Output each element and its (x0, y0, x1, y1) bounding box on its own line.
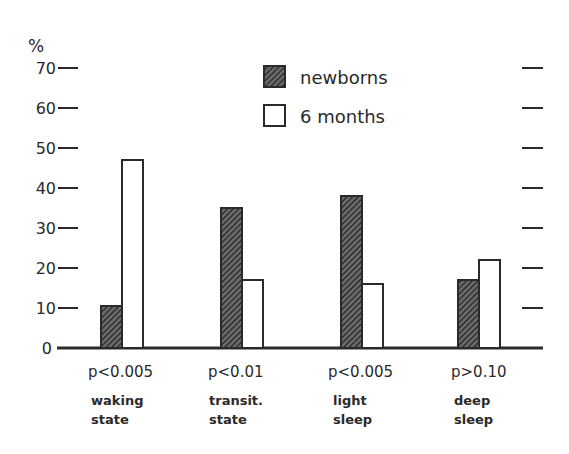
legend-swatch-newborns (264, 66, 285, 87)
p-value-annotation: p<0.01 (208, 363, 264, 381)
bar-6-months (122, 160, 143, 348)
category-label: sleep (333, 412, 372, 427)
category-label: transit. (209, 393, 263, 408)
y-tick-label: 40 (36, 179, 56, 198)
bars (101, 160, 500, 348)
category-labels: p<0.005wakingstatep<0.01transit.statep<0… (88, 363, 507, 427)
bar-chart: %010203040506070 newborns6 months p<0.00… (0, 0, 569, 454)
y-tick-label: 70 (36, 59, 56, 78)
p-value-annotation: p>0.10 (451, 363, 507, 381)
y-tick-label: 30 (36, 219, 56, 238)
category-label: state (91, 412, 129, 427)
y-axis-label: % (28, 36, 44, 56)
p-value-annotation: p<0.005 (328, 363, 393, 381)
y-tick-label: 10 (36, 299, 56, 318)
bar-newborns (458, 280, 479, 348)
bar-newborns (101, 306, 122, 348)
bar-6-months (479, 260, 500, 348)
y-tick-label: 0 (42, 339, 52, 358)
bar-newborns (341, 196, 362, 348)
y-tick-label: 60 (36, 99, 56, 118)
legend-label: newborns (300, 67, 388, 88)
legend-swatch-6-months (264, 105, 285, 126)
category-label: sleep (454, 412, 493, 427)
legend-label: 6 months (300, 106, 385, 127)
bar-6-months (362, 284, 383, 348)
y-tick-label: 20 (36, 259, 56, 278)
category-label: waking (91, 393, 143, 408)
category-label: light (333, 393, 367, 408)
category-label: deep (454, 393, 490, 408)
bar-newborns (221, 208, 242, 348)
y-tick-label: 50 (36, 139, 56, 158)
category-label: state (209, 412, 247, 427)
bar-6-months (242, 280, 263, 348)
legend: newborns6 months (264, 66, 388, 127)
p-value-annotation: p<0.005 (88, 363, 153, 381)
